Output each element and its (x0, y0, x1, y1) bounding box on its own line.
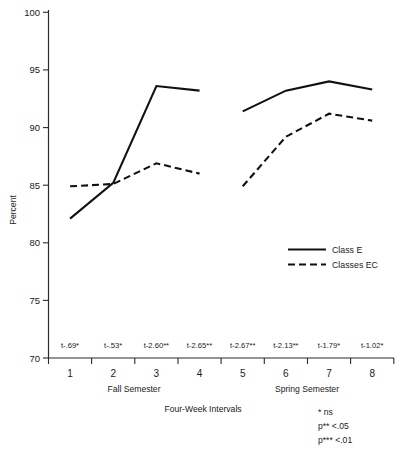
x-axis-title: Four-Week Intervals (164, 404, 241, 414)
x-tick-label-6: 6 (283, 368, 289, 379)
x-tick-label-7: 7 (326, 368, 332, 379)
group-label-spring: Spring Semester (275, 384, 339, 394)
y-tick-label-85: 85 (29, 180, 40, 191)
y-tick-label-90: 90 (29, 122, 40, 133)
x-tick-label-2: 2 (110, 368, 116, 379)
x-tick-label-4: 4 (197, 368, 203, 379)
y-axis-title: Percent (8, 195, 18, 225)
x-tick-label-8: 8 (369, 368, 375, 379)
x-tick-label-5: 5 (240, 368, 246, 379)
series-class-e-spring (243, 81, 372, 111)
t-stat-6: t-2.13** (273, 341, 298, 350)
t-stat-7: t-1.79* (318, 341, 340, 350)
y-tick-label-95: 95 (29, 64, 40, 75)
t-stat-3: t-2.60** (144, 341, 169, 350)
chart-legend: Class E Classes EC (288, 245, 379, 270)
legend-label-classes-ec: Classes EC (332, 260, 379, 270)
x-tick-label-1: 1 (67, 368, 73, 379)
t-stat-4: t-2.65** (187, 341, 212, 350)
legend-label-class-e: Class E (332, 245, 362, 255)
x-tick-label-3: 3 (154, 368, 160, 379)
y-tick-label-100: 100 (24, 7, 40, 18)
y-axis-ticks (43, 12, 49, 358)
t-stat-2: t-.53* (104, 341, 122, 350)
group-label-fall: Fall Semester (107, 384, 160, 394)
x-axis-ticks (49, 358, 394, 364)
series-classes-ec-spring (243, 114, 372, 187)
y-tick-label-70: 70 (29, 353, 40, 364)
y-tick-label-80: 80 (29, 237, 40, 248)
t-stat-8: t-1.02* (361, 341, 383, 350)
footnote-block: * ns p** <.05 p*** <.01 (318, 407, 352, 445)
footnote-p05: p** <.05 (318, 421, 349, 431)
footnote-ns: * ns (318, 407, 333, 417)
line-chart: 100 95 90 85 80 75 70 Percent 1 2 3 4 5 … (0, 0, 404, 450)
series-classes-ec-fall (70, 163, 199, 186)
series-class-e-fall (70, 86, 199, 219)
t-stat-5: t-2.67** (230, 341, 255, 350)
y-tick-label-75: 75 (29, 295, 40, 306)
chart-container: 100 95 90 85 80 75 70 Percent 1 2 3 4 5 … (0, 0, 404, 450)
footnote-p01: p*** <.01 (318, 435, 352, 445)
t-stat-1: t-.69* (61, 341, 79, 350)
